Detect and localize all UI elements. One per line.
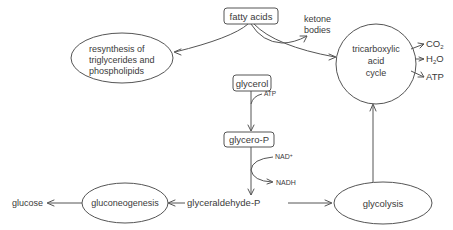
nad-label: NAD (275, 153, 290, 160)
node-glycolysis: glycolysis (334, 182, 432, 224)
atp-cofactor-curve (251, 94, 262, 104)
arrowhead-icon (174, 49, 181, 55)
glycerol-label: glycerol (236, 78, 269, 89)
resynthesis-line-1: resynthesis of (89, 44, 145, 54)
resynthesis-line-2: triglycerides and (89, 55, 155, 65)
tca-line-1: tricarboxylic (352, 44, 400, 54)
nad-superscript: + (290, 152, 293, 158)
co2-subscript: 2 (440, 44, 444, 50)
edge-fatty-acids-to-ketone-bodies (251, 24, 307, 43)
glycero-p-label: glycero-P (229, 134, 269, 145)
gluconeogenesis-label: gluconeogenesis (91, 198, 159, 208)
node-resynthesis: resynthesis of triglycerides and phospho… (71, 33, 173, 83)
nad-cofactor-curve (251, 157, 273, 182)
node-atp-out: ATP (426, 71, 444, 82)
atp-in-label: ATP (264, 90, 276, 97)
metabolic-diagram: fatty acids resynthesis of triglycerides… (0, 0, 453, 230)
fatty-acids-label: fatty acids (230, 11, 273, 22)
co2-label: CO (426, 38, 440, 49)
node-ketone-bodies: ketone bodies (304, 14, 331, 35)
node-tca-cycle: tricarboxylic acid cycle (336, 24, 416, 104)
ketone-bodies-line-1: ketone (304, 14, 331, 24)
glyceraldehyde-p-label: glyceraldehyde-P (187, 197, 260, 208)
tca-line-2: acid (368, 56, 385, 66)
node-glycero-p: glycero-P (224, 132, 274, 147)
resynthesis-line-3: phospholipids (89, 66, 145, 76)
node-glycerol: glycerol (233, 75, 271, 91)
svg-text:H2O: H2O (426, 53, 444, 65)
nadh-label: NADH (276, 179, 296, 186)
h2o-o: O (436, 53, 443, 64)
atp-out-label: ATP (426, 71, 444, 82)
node-h2o: H2O (426, 53, 444, 65)
node-fatty-acids: fatty acids (224, 8, 278, 24)
node-co2: CO2 (426, 38, 444, 50)
tca-line-3: cycle (366, 68, 387, 78)
glucose-label: glucose (12, 198, 43, 208)
node-gluconeogenesis: gluconeogenesis (82, 183, 168, 223)
ketone-bodies-line-2: bodies (304, 25, 331, 35)
svg-text:NAD+: NAD+ (275, 152, 293, 160)
glycolysis-label: glycolysis (363, 198, 404, 209)
edge-fatty-acids-to-resynthesis (175, 24, 248, 52)
svg-text:CO2: CO2 (426, 38, 444, 50)
